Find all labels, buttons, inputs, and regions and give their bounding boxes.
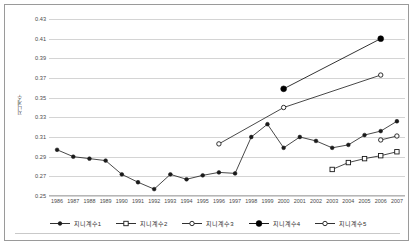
data-point <box>168 172 172 176</box>
data-point <box>298 135 302 139</box>
x-axis-tick: 2007 <box>391 198 403 204</box>
series-line <box>57 121 397 189</box>
x-axis-tick: 2005 <box>359 198 371 204</box>
legend-marker-icon <box>49 219 71 228</box>
data-point <box>217 142 221 146</box>
y-axis-tick: 0.39 <box>35 55 46 61</box>
legend-item-2[interactable]: 지니계수2 <box>115 219 167 228</box>
y-axis-tick: 0.41 <box>35 36 46 42</box>
x-axis-tick-labels: 1986198719881989199019911992199319941995… <box>49 198 405 210</box>
legend-label: 지니계수3 <box>205 219 233 228</box>
x-axis-tick: 1994 <box>181 198 193 204</box>
series-4 <box>281 36 384 92</box>
data-point <box>249 135 253 139</box>
x-axis-tick: 1986 <box>51 198 63 204</box>
y-axis-tick: 0.25 <box>35 193 46 199</box>
legend-label: 지니계수1 <box>73 219 101 228</box>
y-axis-tick: 0.43 <box>35 16 46 22</box>
data-point <box>104 159 108 163</box>
data-point <box>379 153 383 157</box>
series-line <box>219 75 381 144</box>
data-point <box>379 138 383 142</box>
x-axis-tick: 1990 <box>116 198 128 204</box>
data-point <box>88 157 92 161</box>
legend-marker-icon <box>314 219 336 228</box>
legend-item-3[interactable]: 지니계수3 <box>181 219 233 228</box>
x-axis-tick: 1996 <box>213 198 225 204</box>
series-line <box>284 39 381 89</box>
x-axis-tick: 1987 <box>67 198 79 204</box>
data-point <box>201 173 205 177</box>
y-axis-tick: 0.33 <box>35 114 46 120</box>
data-point <box>378 36 384 42</box>
x-axis-tick: 1989 <box>100 198 112 204</box>
x-axis-tick: 1988 <box>83 198 95 204</box>
data-point <box>379 73 383 77</box>
data-point <box>120 172 124 176</box>
data-point <box>233 171 237 175</box>
data-point <box>282 146 286 150</box>
y-axis-tick-labels: 0.430.410.390.370.350.330.310.290.270.25 <box>25 5 47 205</box>
x-axis-tick: 2001 <box>294 198 306 204</box>
data-point <box>266 122 270 126</box>
x-axis-tick: 1997 <box>229 198 241 204</box>
data-point <box>314 139 318 143</box>
series-2 <box>330 150 399 172</box>
legend-label: 지니계수2 <box>139 219 167 228</box>
y-axis-tick: 0.31 <box>35 134 46 140</box>
data-point <box>55 148 59 152</box>
data-point <box>346 160 350 164</box>
legend-item-5[interactable]: 지니계수5 <box>314 219 366 228</box>
y-axis-tick: 0.29 <box>35 154 46 160</box>
legend-item-1[interactable]: 지니계수1 <box>49 219 101 228</box>
x-axis-tick: 2000 <box>278 198 290 204</box>
data-point <box>281 105 285 109</box>
chart-frame: 지니계수 0.430.410.390.370.350.330.310.290.2… <box>4 4 409 241</box>
x-axis-tick: 1993 <box>164 198 176 204</box>
legend-label: 지니계수5 <box>338 219 366 228</box>
data-point <box>152 187 156 191</box>
series-layer <box>49 19 405 196</box>
y-axis-tick: 0.35 <box>35 95 46 101</box>
data-point <box>281 86 287 92</box>
data-point <box>330 146 334 150</box>
y-axis-tick: 0.27 <box>35 173 46 179</box>
data-point <box>346 143 350 147</box>
gridline <box>49 196 405 197</box>
x-axis-tick: 1998 <box>245 198 257 204</box>
data-point <box>395 134 399 138</box>
legend-marker-icon <box>248 219 270 228</box>
data-point <box>363 133 367 137</box>
data-point <box>136 180 140 184</box>
data-point <box>217 171 221 175</box>
x-axis-tick: 1992 <box>148 198 160 204</box>
data-point <box>185 177 189 181</box>
data-point <box>395 150 399 154</box>
x-axis-tick: 1991 <box>132 198 144 204</box>
data-point <box>379 129 383 133</box>
x-axis-tick: 2006 <box>375 198 387 204</box>
data-point <box>395 119 399 123</box>
legend-item-4[interactable]: 지니계수4 <box>248 219 300 228</box>
data-point <box>362 156 366 160</box>
legend-divider <box>15 233 400 234</box>
x-axis-tick: 2004 <box>342 198 354 204</box>
x-axis-tick: 2002 <box>310 198 322 204</box>
x-axis-tick: 2003 <box>326 198 338 204</box>
plot-canvas <box>49 19 405 196</box>
y-axis-tick: 0.37 <box>35 75 46 81</box>
legend-marker-icon <box>181 219 203 228</box>
x-axis-tick: 1999 <box>261 198 273 204</box>
legend-label: 지니계수4 <box>272 219 300 228</box>
plot-area: 지니계수 0.430.410.390.370.350.330.310.290.2… <box>5 5 410 205</box>
chart-legend: 지니계수1지니계수2지니계수3지니계수4지니계수5 <box>5 212 410 234</box>
data-point <box>71 155 75 159</box>
series-5 <box>379 134 400 142</box>
x-axis-tick: 1995 <box>197 198 209 204</box>
legend-marker-icon <box>115 219 137 228</box>
data-point <box>330 167 334 171</box>
series-1 <box>55 119 399 191</box>
